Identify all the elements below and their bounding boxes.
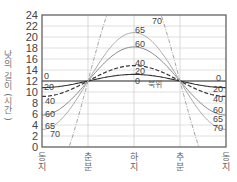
curve-label-right: 40 xyxy=(213,94,223,104)
x-tick-label: 하지 xyxy=(130,152,139,172)
svg-text:의: 의 xyxy=(4,59,12,69)
y-tick-label: 20 xyxy=(26,31,38,43)
curve-label-right: 20 xyxy=(213,84,223,94)
curve-label-left: 40 xyxy=(45,96,55,106)
curve-label-peak: 65 xyxy=(135,25,145,35)
svg-text:이: 이 xyxy=(4,81,12,91)
y-tick-label: 14 xyxy=(26,64,38,76)
svg-text:지: 지 xyxy=(222,162,230,172)
svg-text:): ) xyxy=(3,117,13,121)
curve-label-left: 0 xyxy=(44,71,49,81)
y-tick-label: 24 xyxy=(26,9,38,21)
day-length-chart: 024681012141618202224 동지춘분하지추분동지 낮의길이(시간… xyxy=(0,0,237,182)
y-tick-label: 6 xyxy=(32,108,38,120)
svg-text:동: 동 xyxy=(222,152,230,162)
y-tick-label: 10 xyxy=(26,86,38,98)
x-axis-ticks: 동지춘분하지추분동지 xyxy=(38,152,230,172)
curve-label-left: 60 xyxy=(45,109,55,119)
svg-text:분: 분 xyxy=(84,162,92,172)
curve-label-left: 70 xyxy=(50,129,60,139)
y-tick-label: 8 xyxy=(32,97,38,109)
svg-text:간: 간 xyxy=(4,105,12,115)
x-tick-label: 추분 xyxy=(176,152,184,172)
curve-label-right: 70 xyxy=(213,123,223,133)
svg-text:지: 지 xyxy=(130,162,138,172)
svg-text:하: 하 xyxy=(130,152,139,162)
x-tick-label: 동지 xyxy=(38,152,46,172)
y-axis-ticks: 024681012141618202224 xyxy=(26,9,38,153)
curve-label-peak: 0 xyxy=(135,76,140,86)
svg-text:분: 분 xyxy=(176,162,184,172)
svg-text:추: 추 xyxy=(176,152,184,162)
y-tick-label: 12 xyxy=(26,75,38,87)
x-tick-label: 춘분 xyxy=(84,152,92,172)
svg-text:동: 동 xyxy=(38,152,46,162)
curve-label-peak: 60 xyxy=(135,39,145,49)
y-tick-label: 16 xyxy=(26,53,38,65)
curve-label-right: 0 xyxy=(216,73,221,83)
y-tick-label: 4 xyxy=(32,119,38,131)
svg-text:지: 지 xyxy=(38,162,46,172)
curve-label-left: 20 xyxy=(44,82,54,92)
curve-labels: 020406065700204060657070656040200북위 xyxy=(44,16,223,139)
y-axis-label: 낮의길이(시간) xyxy=(3,50,13,121)
y-tick-label: 18 xyxy=(26,42,38,54)
y-tick-label: 2 xyxy=(32,130,38,142)
x-tick-label: 동지 xyxy=(222,152,230,172)
svg-text:춘: 춘 xyxy=(84,152,92,162)
y-tick-label: 22 xyxy=(26,20,38,32)
latitude-annotation: 북위 xyxy=(148,80,162,89)
curve-label-peak: 70 xyxy=(152,16,162,26)
curve-label-peak: 20 xyxy=(135,66,145,76)
